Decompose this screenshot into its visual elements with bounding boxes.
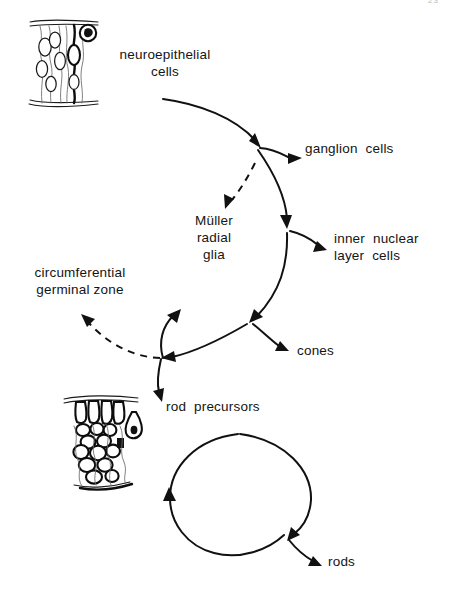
label-neuroepithelial-cells: neuroepithelial cells [100, 46, 230, 80]
label-inner-nuclear-layer-cells: inner nuclear layer cells [334, 230, 452, 264]
rod-precursor-micrograph-sketch [0, 0, 453, 600]
label-muller-radial-glia: Müller radial glia [178, 212, 250, 263]
label-cones: cones [297, 342, 367, 359]
diagram-canvas: 23 [0, 0, 453, 600]
label-rods: rods [328, 553, 388, 570]
label-circumferential-germinal-zone: circumferential germinal zone [10, 264, 150, 298]
label-rod-precursors: rod precursors [166, 398, 306, 415]
label-ganglion-cells: ganglion cells [305, 140, 445, 157]
